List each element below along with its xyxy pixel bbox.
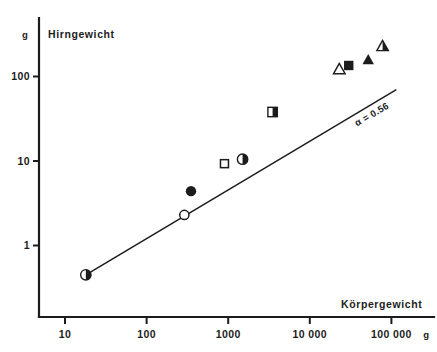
y-axis-title: Hirngewicht (48, 28, 115, 40)
x-axis-ticks: 10100100010 000100 000g (59, 317, 429, 340)
y-axis-unit-label: g (22, 29, 28, 40)
y-tick-label: 10 (18, 155, 30, 167)
x-tick-label: 100 (137, 328, 156, 340)
x-tick-label: 100 000 (371, 328, 412, 340)
x-tick-label: 1000 (216, 328, 241, 340)
y-axis-ticks: 110100 (11, 70, 39, 251)
x-tick-label: 10 000 (293, 328, 328, 340)
data-point-circle-half (81, 270, 91, 280)
chart-canvas: 110100 10100100010 000100 000g g Hirngew… (0, 0, 437, 352)
data-point-circle-half (237, 154, 247, 164)
data-point-circle-solid (186, 186, 196, 196)
data-point-triangle-half (377, 40, 389, 50)
axes (39, 18, 434, 317)
y-tick-label: 1 (24, 239, 30, 251)
data-point-triangle-open (334, 63, 346, 73)
regression-line (86, 90, 397, 275)
x-axis-title: Körpergewicht (341, 298, 422, 310)
data-point-triangle-solid (362, 54, 374, 64)
data-point-square-open (220, 160, 228, 168)
x-axis-unit-label: g (423, 329, 429, 340)
data-point-square-solid (344, 61, 353, 70)
data-point-square-half (268, 107, 277, 116)
scatter-chart: 110100 10100100010 000100 000g g Hirngew… (0, 0, 437, 352)
data-point-circle-open (180, 210, 189, 219)
data-points (81, 40, 389, 280)
x-tick-label: 10 (59, 328, 71, 340)
y-tick-label: 100 (11, 70, 30, 82)
